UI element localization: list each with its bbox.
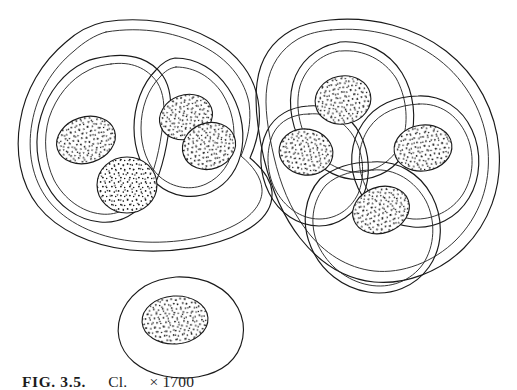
figure-caption-label: FIG. 3.5. <box>22 374 86 390</box>
figure-caption: FIG. 3.5. Cl. × 1700 <box>0 374 517 390</box>
figure-caption-description: Cl. <box>108 374 127 390</box>
figure-illustration <box>0 0 517 390</box>
plate-background <box>0 0 517 390</box>
spore-l2 <box>97 157 157 213</box>
figure-plate: FIG. 3.5. Cl. × 1700 <box>0 0 517 390</box>
figure-caption-magnification: × 1700 <box>149 374 194 390</box>
figure-caption-text: FIG. 3.5. Cl. × 1700 <box>22 374 194 390</box>
